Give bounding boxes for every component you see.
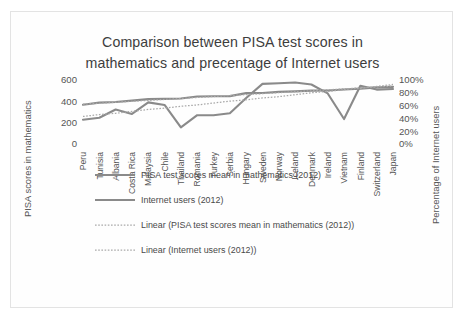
- x-axis-category-label: Peru: [78, 152, 88, 170]
- left-axis-title: PISA scores in mathematics: [22, 100, 33, 217]
- right-axis-tick: 40%: [399, 113, 419, 124]
- right-axis-title: Percentage of Internet users: [430, 105, 441, 224]
- series-line-data: [83, 87, 393, 105]
- x-axis-category-label: Denmark: [307, 151, 317, 187]
- left-axis-tick-labels: 6004002000: [61, 74, 77, 149]
- x-axis-category-label: Chile: [160, 152, 170, 172]
- right-axis-tick: 80%: [399, 87, 419, 98]
- legend-label: Linear (Internet users (2012)): [141, 245, 256, 255]
- left-axis-tick: 600: [61, 74, 77, 85]
- right-axis-tick: 60%: [399, 100, 419, 111]
- right-axis-tick: 100%: [399, 74, 424, 85]
- comparison-line-chart: Comparison between PISA test scores in m…: [11, 12, 454, 309]
- left-axis-tick: 200: [61, 117, 77, 128]
- legend-label: Internet users (2012): [141, 195, 223, 205]
- right-axis-tick-labels: 100%80%60%40%20%0%: [399, 74, 424, 149]
- left-axis-tick: 400: [61, 96, 77, 107]
- x-axis-category-label: Vietnam: [339, 152, 349, 183]
- x-axis-category-label: Romania: [192, 152, 202, 187]
- left-axis-tick: 0: [72, 138, 77, 149]
- x-axis-category-label: Finland: [356, 152, 366, 180]
- chart-series-group: [83, 83, 393, 128]
- x-axis-category-label: Switzerland: [372, 152, 382, 197]
- x-axis-category-label: Ireland: [323, 152, 333, 178]
- chart-card: Comparison between PISA test scores in m…: [10, 11, 453, 308]
- x-axis-category-label: Japan: [388, 152, 398, 176]
- chart-title-line-1: Comparison between PISA test scores in: [102, 34, 363, 50]
- x-axis-category-label: Malaysia: [143, 152, 153, 186]
- legend-label: Linear (PISA test scores mean in mathema…: [141, 220, 354, 230]
- right-axis-tick: 20%: [399, 126, 419, 137]
- legend-label: PISA test scores mean in mathematics (20…: [141, 170, 321, 180]
- right-axis-tick: 0%: [399, 138, 413, 149]
- chart-title-line-2: mathematics and precentage of Internet u…: [86, 55, 380, 71]
- chart-title: Comparison between PISA test scores in m…: [86, 34, 380, 71]
- x-axis-category-label: Albania: [111, 152, 121, 181]
- x-axis-category-label: Costa Rica: [127, 152, 137, 194]
